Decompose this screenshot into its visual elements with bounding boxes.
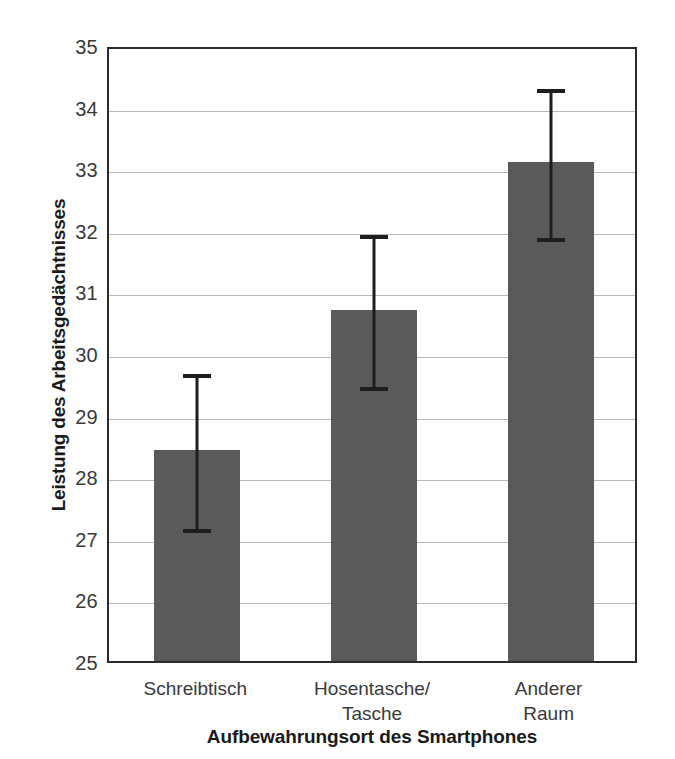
y-tick-label: 28 (54, 467, 98, 490)
error-bar-line (549, 91, 552, 240)
x-tick-label: Schreibtisch (144, 676, 248, 701)
y-tick-label: 26 (54, 590, 98, 613)
error-bar-cap-upper (537, 89, 565, 93)
bar-chart-figure: Leistung des Arbeitsgedächtnisses 252627… (0, 0, 675, 759)
y-tick-label: 34 (54, 97, 98, 120)
y-tick-label: 31 (54, 282, 98, 305)
x-tick-label: Hosentasche/ Tasche (314, 676, 430, 726)
plot-area (107, 47, 637, 663)
y-tick-label: 33 (54, 159, 98, 182)
error-bar-cap-upper (360, 235, 388, 239)
error-bar-line (196, 376, 199, 531)
y-tick-label: 25 (54, 652, 98, 675)
y-tick-label: 27 (54, 528, 98, 551)
error-bar-cap-lower (537, 238, 565, 242)
y-tick-label: 29 (54, 405, 98, 428)
y-tick-label: 35 (54, 36, 98, 59)
error-bar-cap-upper (183, 374, 211, 378)
error-bar-line (373, 237, 376, 389)
x-axis-tick-labels: SchreibtischHosentasche/ TascheAnderer R… (107, 676, 637, 726)
y-tick-label: 32 (54, 220, 98, 243)
y-axis-tick-labels: 2526272829303132333435 (44, 47, 98, 663)
error-bar-cap-lower (360, 387, 388, 391)
gridline (109, 111, 635, 112)
error-bar-cap-lower (183, 529, 211, 533)
x-tick-label: Anderer Raum (504, 676, 592, 726)
x-axis-title: Aufbewahrungsort des Smartphones (107, 726, 637, 748)
y-tick-label: 30 (54, 344, 98, 367)
